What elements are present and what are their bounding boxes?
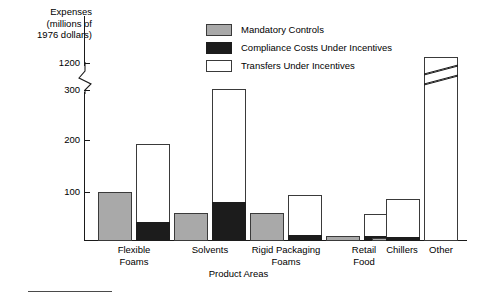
legend-item-compliance-costs: Compliance Costs Under Incentives <box>206 40 392 55</box>
y-tick-label-200: 200 <box>34 135 80 145</box>
y-axis-title-line-1: Expenses <box>18 6 92 18</box>
x-tick-label-other: Other <box>412 244 470 256</box>
bar-other-transfers <box>424 57 458 241</box>
y-tick-200 <box>84 140 90 141</box>
bar-flexible-foams-compliance <box>136 222 170 241</box>
y-axis-line-upper <box>84 16 85 66</box>
bar-solvents-mandatory <box>174 213 208 241</box>
bar-solvents-compliance <box>212 202 246 241</box>
bar-rigid-packaging-foams-mandatory <box>250 213 284 241</box>
y-tick-label-100: 100 <box>34 187 80 197</box>
chart-figure: Expenses (millions of 1976 dollars) 1200… <box>0 0 477 303</box>
x-tick-label-line-2: Foams <box>238 256 334 268</box>
x-tick-label-line-2: Foams <box>94 256 174 268</box>
legend-item-transfers: Transfers Under Incentives <box>206 58 392 73</box>
y-tick-1200 <box>84 63 90 64</box>
x-axis-title: Product Areas <box>0 268 477 279</box>
chart-legend: Mandatory Controls Compliance Costs Unde… <box>206 22 392 76</box>
legend-swatch-icon-transfers <box>206 60 232 72</box>
x-tick-label-flexible-foams: Flexible Foams <box>94 244 174 267</box>
legend-label-mandatory: Mandatory Controls <box>241 24 324 35</box>
y-axis-line-lower <box>84 92 85 240</box>
y-axis-title-line-2: (millions of <box>18 18 92 30</box>
legend-swatch-icon-compliance <box>206 42 232 54</box>
bar-flexible-foams-mandatory <box>98 192 132 241</box>
y-tick-300 <box>84 90 90 91</box>
y-axis-title-line-3: 1976 dollars) <box>18 29 92 41</box>
x-tick-label-rigid-packaging-foams: Rigid Packaging Foams <box>238 244 334 267</box>
bar-rigid-packaging-foams-compliance <box>288 235 322 241</box>
legend-swatch-icon-mandatory <box>206 24 232 36</box>
x-tick-label-line-1: Other <box>412 244 470 256</box>
bar-retail-food-mandatory <box>326 236 360 241</box>
legend-label-transfers: Transfers Under Incentives <box>241 60 355 71</box>
legend-item-mandatory-controls: Mandatory Controls <box>206 22 392 37</box>
y-tick-label-300: 300 <box>34 85 80 95</box>
y-axis-title: Expenses (millions of 1976 dollars) <box>18 6 92 41</box>
footnote-divider <box>28 291 112 292</box>
x-tick-label-line-1: Rigid Packaging <box>238 244 334 256</box>
x-tick-label-line-1: Flexible <box>94 244 174 256</box>
bar-chillers-transfers <box>386 199 420 241</box>
y-tick-label-1200: 1200 <box>34 58 80 68</box>
y-tick-100 <box>84 192 90 193</box>
x-tick-label-line-2: Food <box>330 256 398 268</box>
bar-chillers-compliance <box>386 237 420 241</box>
legend-label-compliance: Compliance Costs Under Incentives <box>241 42 392 53</box>
